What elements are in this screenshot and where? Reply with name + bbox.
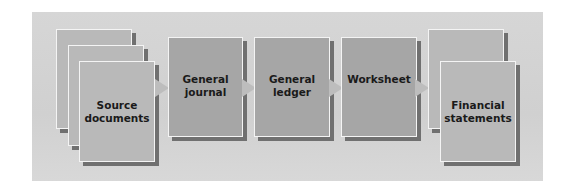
- worksheet-box: Worksheet: [341, 37, 417, 137]
- arrow-right-icon: [415, 79, 429, 97]
- financial-statements-label: Financial statements: [444, 99, 511, 125]
- source-documents-box: Source documents: [79, 61, 155, 162]
- financial-statements-box: Financial statements: [440, 61, 516, 162]
- general-ledger-label: General ledger: [255, 73, 329, 99]
- general-journal-label: General journal: [169, 73, 242, 99]
- general-ledger-box: General ledger: [254, 37, 330, 137]
- source-documents-label: Source documents: [84, 99, 149, 125]
- general-journal-box: General journal: [168, 37, 243, 137]
- arrow-right-icon: [155, 79, 169, 97]
- worksheet-label: Worksheet: [342, 73, 416, 86]
